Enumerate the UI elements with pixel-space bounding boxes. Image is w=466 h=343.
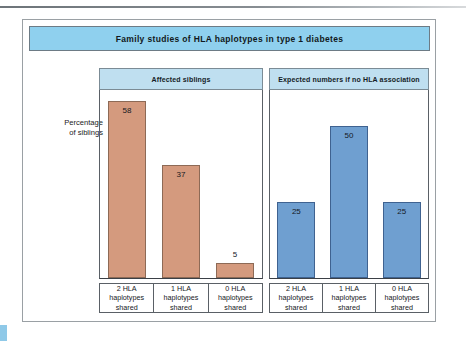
bar-group-expected: 25 50 25 [270, 90, 428, 278]
category-cell-affected-1: 1 HLA haplotypes shared [153, 283, 208, 313]
category-line-2: haplotypes [218, 293, 253, 302]
category-line-1: 0 HLA [392, 284, 412, 293]
plot-body-expected: 25 50 25 [269, 90, 429, 279]
y-axis-caption-line1: Percentage [47, 118, 103, 128]
category-cell-affected-0: 0 HLA haplotypes shared [208, 283, 263, 313]
category-row-affected: 2 HLA haplotypes shared 1 HLA haplotypes… [99, 283, 263, 313]
category-line-2: haplotypes [332, 293, 367, 302]
bar-value-label: 5 [217, 250, 253, 259]
bar-value-label: 25 [384, 207, 420, 216]
y-axis-caption-line2: of siblings [47, 128, 103, 138]
bar-expected-2-haplotypes: 25 [277, 202, 315, 278]
group-header-affected-label: Affected siblings [152, 76, 211, 83]
category-line-3: shared [224, 303, 246, 312]
category-line-1: 1 HLA [339, 284, 359, 293]
category-line-2: haplotypes [164, 293, 199, 302]
category-line-2: haplotypes [279, 293, 314, 302]
group-header-affected: Affected siblings [99, 68, 263, 90]
bar-expected-1-haplotype: 50 [330, 126, 368, 278]
bar-affected-0-haplotypes: 5 [216, 263, 254, 278]
plot-body-affected: 58 37 5 [99, 90, 263, 279]
page-top-rule [0, 6, 466, 8]
bar-expected-0-haplotypes: 25 [383, 202, 421, 278]
category-line-3: shared [116, 303, 138, 312]
bar-value-label: 25 [278, 207, 314, 216]
category-line-1: 2 HLA [286, 284, 306, 293]
bar-affected-1-haplotype: 37 [162, 165, 200, 278]
bar-value-label: 37 [163, 170, 199, 179]
y-axis-caption: Percentage of siblings [47, 118, 103, 138]
bar-slot: 25 [270, 90, 323, 278]
panel-expected-numbers: Expected numbers if no HLA association 2… [269, 68, 429, 313]
category-cell-expected-0: 0 HLA haplotypes shared [375, 283, 429, 313]
category-line-1: 0 HLA [225, 284, 245, 293]
category-cell-affected-2: 2 HLA haplotypes shared [99, 283, 154, 313]
bar-slot: 58 [100, 90, 154, 278]
bar-affected-2-haplotypes: 58 [108, 101, 146, 278]
page-edge-mark [0, 325, 7, 341]
chart-panels: Affected siblings 58 37 [99, 68, 429, 313]
category-line-1: 1 HLA [171, 284, 191, 293]
category-row-expected: 2 HLA haplotypes shared 1 HLA haplotypes… [269, 283, 429, 313]
panel-affected-siblings: Affected siblings 58 37 [99, 68, 263, 313]
figure-title: Family studies of HLA haplotypes in type… [116, 34, 344, 44]
figure-frame: Family studies of HLA haplotypes in type… [22, 19, 436, 322]
category-line-3: shared [285, 303, 307, 312]
group-header-expected: Expected numbers if no HLA association [269, 68, 429, 90]
bar-slot: 50 [323, 90, 376, 278]
category-line-2: haplotypes [109, 293, 144, 302]
bar-slot: 25 [375, 90, 428, 278]
category-line-3: shared [338, 303, 360, 312]
category-line-1: 2 HLA [117, 284, 137, 293]
category-line-3: shared [170, 303, 192, 312]
category-cell-expected-2: 2 HLA haplotypes shared [269, 283, 323, 313]
bar-slot: 37 [154, 90, 208, 278]
bar-value-label: 58 [109, 106, 145, 115]
bar-value-label: 50 [331, 131, 367, 140]
bar-group-affected: 58 37 5 [100, 90, 262, 278]
figure-title-bar: Family studies of HLA haplotypes in type… [29, 26, 430, 51]
group-header-expected-label: Expected numbers if no HLA association [278, 76, 420, 83]
category-cell-expected-1: 1 HLA haplotypes shared [322, 283, 376, 313]
bar-slot: 5 [208, 90, 262, 278]
category-line-2: haplotypes [385, 293, 420, 302]
category-line-3: shared [391, 303, 413, 312]
